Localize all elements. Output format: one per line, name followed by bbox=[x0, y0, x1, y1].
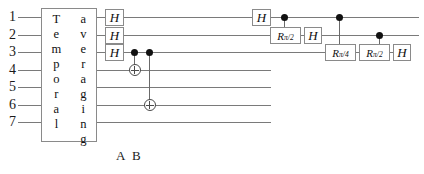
gate-rotation-subscript: π/2 bbox=[373, 50, 383, 59]
wire-label-3: 3 bbox=[0, 45, 16, 59]
wire-label-4: 4 bbox=[0, 63, 16, 77]
gate-hadamard-w1-c1[interactable]: H bbox=[105, 9, 124, 26]
av-char-a: a bbox=[81, 12, 87, 27]
ta-char-r: r bbox=[54, 87, 58, 102]
cnot-b-target[interactable] bbox=[144, 99, 156, 111]
cnot-marker-b-label: B bbox=[132, 148, 141, 164]
temporal-averaging-word-left: T e m p o r a l bbox=[52, 12, 62, 132]
cnot-b-control-dot[interactable] bbox=[146, 49, 153, 56]
cnot-a-control-dot[interactable] bbox=[131, 49, 138, 56]
ta-char-m: m bbox=[52, 42, 62, 57]
ta-char-l: l bbox=[55, 117, 58, 132]
av-char-i: i bbox=[82, 102, 85, 117]
av-char-r: r bbox=[81, 57, 85, 72]
temporal-averaging-box: T e m p o r a l a v e r a g i n g bbox=[41, 8, 97, 142]
gate-rotation-pi2-w3[interactable]: Rπ/2 bbox=[359, 44, 390, 61]
ta-char-T: T bbox=[53, 12, 61, 27]
wire-label-6: 6 bbox=[0, 98, 16, 112]
gate-hadamard-w3-c1[interactable]: H bbox=[105, 44, 124, 61]
cnot-marker-a-label: A bbox=[116, 148, 125, 164]
gate-hadamard-w3-qft[interactable]: H bbox=[393, 44, 411, 61]
av-char-g: g bbox=[80, 87, 86, 102]
ta-char-e: e bbox=[54, 27, 60, 42]
wire-label-5: 5 bbox=[0, 80, 16, 94]
gate-rotation-label: R bbox=[366, 47, 373, 59]
crot-w1-w3-control-dot[interactable] bbox=[336, 14, 343, 21]
av-char-e: e bbox=[81, 42, 87, 57]
ta-char-p: p bbox=[53, 57, 59, 72]
av-char-g2: g bbox=[80, 132, 86, 147]
gate-rotation-pi4-w3[interactable]: Rπ/4 bbox=[325, 44, 356, 61]
crot-w2-w3-control-dot[interactable] bbox=[376, 32, 383, 39]
gate-rotation-subscript: π/2 bbox=[284, 33, 294, 42]
crot-w1-w2-control-dot[interactable] bbox=[281, 14, 288, 21]
cnot-a-target[interactable] bbox=[129, 64, 141, 76]
gate-rotation-label: R bbox=[332, 47, 339, 59]
gate-hadamard-w2-qft[interactable]: H bbox=[304, 27, 322, 44]
temporal-averaging-word-right: a v e r a g i n g bbox=[80, 12, 86, 147]
gate-hadamard-w1-qft[interactable]: H bbox=[252, 9, 271, 26]
gate-rotation-label: R bbox=[277, 30, 284, 42]
av-char-v: v bbox=[80, 27, 86, 42]
wire-label-7: 7 bbox=[0, 115, 16, 129]
ta-char-o: o bbox=[53, 72, 59, 87]
av-char-n: n bbox=[80, 117, 86, 132]
gate-rotation-pi2-w2[interactable]: Rπ/2 bbox=[270, 27, 301, 44]
av-char-a2: a bbox=[81, 72, 87, 87]
gate-hadamard-w2-c1[interactable]: H bbox=[105, 27, 124, 44]
wire-label-1: 1 bbox=[0, 10, 16, 24]
cnot-b-vertical-line bbox=[149, 52, 150, 105]
quantum-circuit-diagram: 1 2 3 4 5 6 7 T e m p o r a l a v e r a … bbox=[0, 0, 424, 174]
wire-label-2: 2 bbox=[0, 28, 16, 42]
ta-char-a: a bbox=[54, 102, 60, 117]
gate-rotation-subscript: π/4 bbox=[339, 50, 349, 59]
